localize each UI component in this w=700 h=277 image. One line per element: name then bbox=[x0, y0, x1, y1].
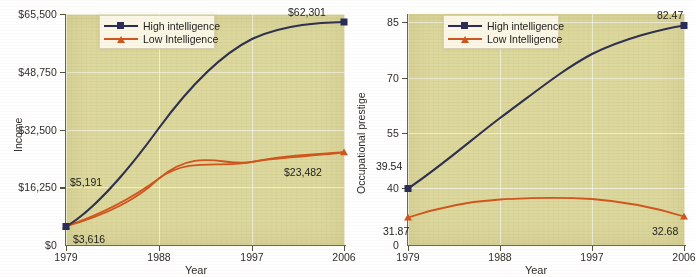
low-intelligence-line-seg bbox=[66, 152, 344, 226]
legend-label-low: Low Intelligence bbox=[487, 33, 562, 45]
legend-label-high: High intelligence bbox=[143, 20, 220, 32]
data-label-high-end: 82.47 bbox=[657, 9, 683, 21]
legend-label-high: High intelligence bbox=[487, 20, 564, 32]
data-label-low-start: $3,616 bbox=[73, 233, 105, 245]
legend-row-low: Low Intelligence bbox=[104, 32, 208, 45]
legend-row-high: High intelligence bbox=[104, 19, 208, 32]
low-intelligence-line bbox=[66, 152, 344, 226]
square-marker-icon bbox=[117, 22, 124, 29]
data-label-low-start: 31.87 bbox=[383, 225, 409, 237]
triangle-marker-icon bbox=[117, 36, 125, 43]
data-label-low-end: 32.68 bbox=[652, 225, 678, 237]
data-label-low-end: $23,482 bbox=[284, 166, 322, 178]
triangle-marker-icon bbox=[461, 36, 469, 43]
square-marker-icon bbox=[461, 22, 468, 29]
high-intelligence-line bbox=[66, 22, 344, 227]
data-label-high-start: $5,191 bbox=[70, 176, 102, 188]
low-intelligence-line bbox=[408, 198, 684, 218]
legend-label-low: Low Intelligence bbox=[143, 33, 218, 45]
data-label-high-end: $62,301 bbox=[288, 6, 326, 18]
high-intelligence-key bbox=[448, 20, 482, 32]
income-legend: High intelligence Low Intelligence bbox=[99, 15, 215, 49]
low-intelligence-key bbox=[104, 33, 138, 45]
high-intelligence-line bbox=[408, 26, 684, 189]
high-intelligence-key bbox=[104, 20, 138, 32]
square-marker-icon bbox=[681, 22, 688, 29]
legend-row-low: Low Intelligence bbox=[448, 32, 552, 45]
data-label-high-start: 39.54 bbox=[376, 160, 402, 172]
prestige-legend: High intelligence Low Intelligence bbox=[443, 15, 559, 49]
square-marker-icon bbox=[405, 185, 412, 192]
prestige-chart: 85 70 55 40 0 Occupational prestige 1979… bbox=[347, 0, 693, 277]
income-chart: $65,500 $48,750 $32,500 $16,250 $0 Incom… bbox=[0, 0, 346, 277]
square-marker-icon bbox=[63, 223, 70, 230]
low-intelligence-key bbox=[448, 33, 482, 45]
legend-row-high: High intelligence bbox=[448, 19, 552, 32]
